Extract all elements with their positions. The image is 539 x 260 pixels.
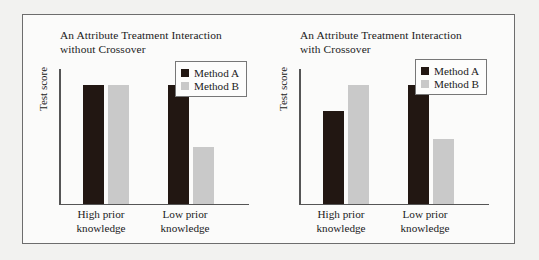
x-tick-right-high-prior: High prior knowledge: [299, 208, 383, 235]
legend-swatch-method-b-icon: [181, 82, 189, 90]
bar-left-high-method-a: [83, 85, 104, 204]
legend-label-method-b: Method B: [194, 80, 239, 92]
x-tick-right-low-prior-line-2: knowledge: [383, 222, 467, 236]
chart-panel-with-crossover: An Attribute Treatment Interaction with …: [263, 15, 509, 245]
legend-swatch-method-a-icon: [421, 67, 429, 75]
chart-title-line-2-right: with Crossover: [300, 43, 500, 57]
bar-right-high-method-a: [323, 111, 344, 204]
x-tick-left-low-prior-line-2: knowledge: [143, 222, 227, 236]
y-axis-line-right: [299, 69, 301, 205]
legend-item-method-a-left: Method A: [181, 66, 239, 79]
x-tick-left-high-prior-line-2: knowledge: [59, 222, 143, 236]
x-tick-right-low-prior-line-1: Low prior: [402, 208, 447, 220]
bar-left-low-method-a: [168, 85, 189, 204]
bar-left-low-method-b: [193, 147, 214, 204]
legend-label-method-a: Method A: [434, 65, 479, 77]
x-tick-right-low-prior: Low prior knowledge: [383, 208, 467, 235]
x-tick-left-low-prior: Low prior knowledge: [143, 208, 227, 235]
x-tick-right-high-prior-line-2: knowledge: [299, 222, 383, 236]
chart-title-line-1: An Attribute Treatment Interaction: [60, 29, 222, 41]
chart-title-line-2: without Crossover: [60, 43, 260, 57]
chart-title-line-1-right: An Attribute Treatment Interaction: [300, 29, 462, 41]
legend-item-method-b-right: Method B: [421, 77, 479, 90]
chart-title-with-crossover: An Attribute Treatment Interaction with …: [300, 29, 500, 56]
x-axis-labels-left: High prior knowledge Low prior knowledge: [59, 208, 249, 235]
legend-label-method-a: Method A: [194, 67, 239, 79]
bar-right-low-method-b: [433, 139, 454, 204]
x-axis-line-left: [59, 204, 249, 206]
x-tick-left-high-prior: High prior knowledge: [59, 208, 143, 235]
y-axis-label-left: Test score: [37, 67, 49, 111]
legend-without-crossover: Method A Method B: [175, 61, 247, 97]
legend-swatch-method-a-icon: [181, 69, 189, 77]
legend-item-method-a-right: Method A: [421, 64, 479, 77]
bar-right-low-method-a: [408, 85, 429, 204]
x-tick-left-high-prior-line-1: High prior: [78, 208, 125, 220]
bar-right-high-method-b: [348, 85, 369, 204]
x-tick-left-low-prior-line-1: Low prior: [162, 208, 207, 220]
chart-panel-without-crossover: An Attribute Treatment Interaction witho…: [23, 15, 269, 245]
x-axis-line-right: [299, 204, 489, 206]
legend-with-crossover: Method A Method B: [415, 59, 487, 95]
bar-left-high-method-b: [108, 85, 129, 204]
y-axis-label-right: Test score: [277, 67, 289, 111]
figure-frame: An Attribute Treatment Interaction witho…: [22, 14, 515, 244]
x-tick-right-high-prior-line-1: High prior: [318, 208, 365, 220]
y-axis-line-left: [59, 69, 61, 205]
legend-swatch-method-b-icon: [421, 80, 429, 88]
chart-title-without-crossover: An Attribute Treatment Interaction witho…: [60, 29, 260, 56]
x-axis-labels-right: High prior knowledge Low prior knowledge: [299, 208, 489, 235]
legend-item-method-b-left: Method B: [181, 79, 239, 92]
legend-label-method-b: Method B: [434, 78, 479, 90]
